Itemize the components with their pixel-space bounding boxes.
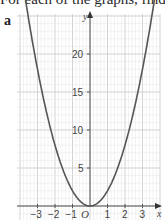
y-axis-label: y <box>82 11 88 22</box>
x-axis-label: x <box>156 208 162 219</box>
axes <box>17 11 162 209</box>
y-tick-label: 15 <box>72 87 84 98</box>
x-tick-label: 3 <box>140 209 146 220</box>
grid <box>17 14 160 220</box>
y-axis-arrow-icon <box>87 11 93 18</box>
x-tick-label: −2 <box>48 209 60 220</box>
y-tick-label: 20 <box>72 49 84 60</box>
y-tick-label: 10 <box>72 125 84 136</box>
x-tick-label: 2 <box>122 209 128 220</box>
x-tick-label: −1 <box>66 209 78 220</box>
graph: −3−2−11235101520 y x O <box>0 0 165 220</box>
x-tick-label: −3 <box>31 209 43 220</box>
origin-label: O <box>81 208 89 220</box>
y-tick-label: 5 <box>78 163 84 174</box>
x-tick-label: 1 <box>105 209 111 220</box>
